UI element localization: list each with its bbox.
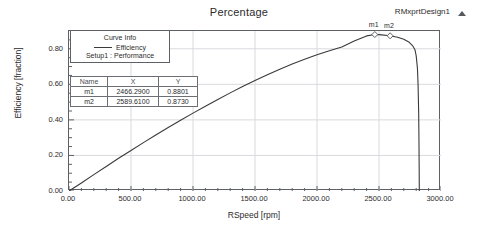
y-tick-label: 0.20	[32, 150, 63, 159]
marker-row-y: 0.8801	[159, 87, 198, 97]
x-tick-label: 500.00	[119, 194, 142, 203]
legend-header: Curve Info	[73, 34, 167, 44]
x-tick-label: 1000.00	[178, 194, 205, 203]
x-tick-label: 3000.00	[426, 194, 453, 203]
curve-info-legend[interactable]: Curve Info Efficiency Setup1 : Performan…	[70, 30, 170, 63]
legend-line-swatch	[94, 47, 112, 48]
x-tick-label: 1500.00	[240, 194, 267, 203]
y-tick-label: 0.80	[32, 43, 63, 52]
marker-m1[interactable]	[372, 32, 378, 38]
marker-table-col-name: Name	[71, 77, 108, 87]
marker-table-row[interactable]: m12466.29000.8801	[71, 87, 198, 97]
y-axis-title: Efficiency [fraction]	[13, 18, 23, 148]
triangle-up-icon	[458, 11, 466, 16]
marker-table-col-x: X	[108, 77, 159, 87]
legend-series-label: Efficiency	[116, 44, 146, 51]
legend-setup-label: Setup1 : Performance	[73, 51, 167, 59]
marker-tag-m1: m1	[369, 21, 379, 28]
design-name-label: RMxprtDesign1	[395, 7, 450, 16]
y-tick-label: 0.00	[32, 186, 63, 195]
x-tick-label: 2500.00	[364, 194, 391, 203]
marker-table-col-y: Y	[159, 77, 198, 87]
marker-row-y: 0.8730	[159, 97, 198, 107]
marker-row-x: 2466.2900	[108, 87, 159, 97]
marker-table-row[interactable]: m22589.61000.8730	[71, 97, 198, 107]
y-tick-label: 0.60	[32, 79, 63, 88]
marker-row-name: m1	[71, 87, 108, 97]
marker-row-x: 2589.6100	[108, 97, 159, 107]
marker-table-header-row: Name X Y	[71, 77, 198, 87]
chart-screenshot: Percentage RMxprtDesign1 m1 m2 0.00500.0…	[0, 0, 478, 229]
x-axis-title: RSpeed [rpm]	[68, 210, 440, 220]
marker-tag-m2: m2	[384, 22, 394, 29]
marker-row-name: m2	[71, 97, 108, 107]
marker-data-table[interactable]: Name X Y m12466.29000.8801m22589.61000.8…	[70, 76, 198, 107]
legend-series-row: Efficiency	[73, 44, 167, 51]
marker-m2[interactable]	[387, 33, 393, 39]
y-tick-label: 0.40	[32, 114, 63, 123]
x-tick-label: 2000.00	[302, 194, 329, 203]
x-tick-label: 0.00	[61, 194, 76, 203]
